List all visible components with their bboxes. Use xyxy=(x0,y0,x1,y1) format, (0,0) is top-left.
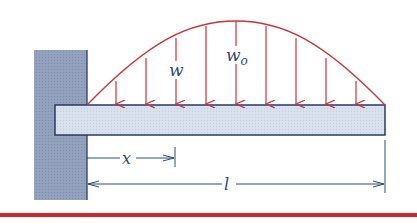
cantilever-beam xyxy=(55,105,385,135)
l-label: l xyxy=(224,175,229,194)
x-dimension: x xyxy=(87,147,175,168)
load-w-label: w xyxy=(169,60,184,80)
distributed-load: w wo xyxy=(87,21,385,105)
bottom-rule xyxy=(0,213,417,217)
beam-diagram: w wo x l xyxy=(0,0,417,224)
length-dimension: l xyxy=(88,140,385,194)
x-label: x xyxy=(122,149,131,168)
